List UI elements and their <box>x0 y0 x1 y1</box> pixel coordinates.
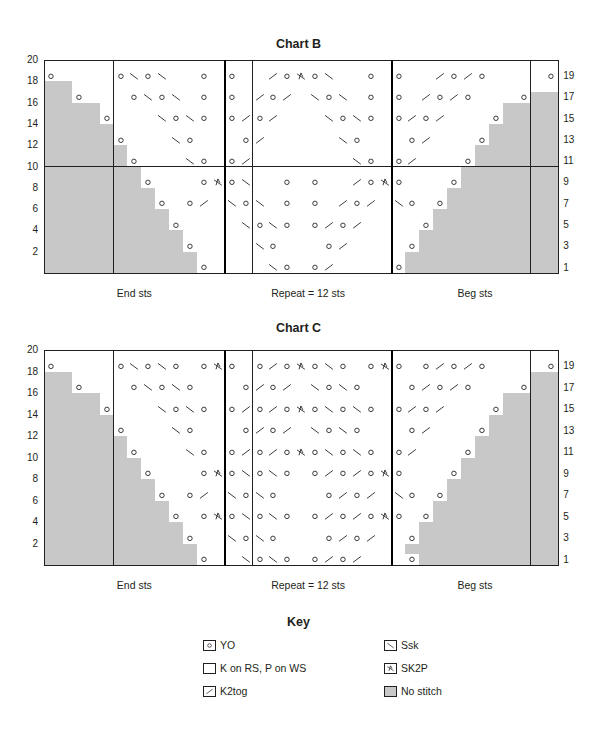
row-number-left: 4 <box>18 225 38 235</box>
stitch-cell <box>225 554 240 566</box>
row-number-right: 15 <box>563 404 583 414</box>
key-item-label: K on RS, P on WS <box>220 662 306 674</box>
no-stitch-cell <box>531 554 546 566</box>
no-stitch-cell <box>461 262 476 274</box>
row-number-right: 3 <box>563 533 583 543</box>
row-number-right: 3 <box>563 241 583 251</box>
row-number-right: 5 <box>563 512 583 522</box>
repeat-label: Repeat = 12 sts <box>225 579 392 591</box>
stitch-cell <box>266 262 281 274</box>
stitch-cell <box>322 554 337 566</box>
no-stitch-cell <box>100 262 115 274</box>
row-number-right: 15 <box>563 114 583 124</box>
row-number-right: 11 <box>563 156 583 166</box>
stitch-cell <box>239 554 254 566</box>
row-number-right: 19 <box>563 361 583 371</box>
row-number-right: 11 <box>563 447 583 457</box>
stitch-cell <box>294 554 309 566</box>
beg-sts-label: Beg sts <box>392 579 559 591</box>
ssk-swatch-icon <box>384 640 397 651</box>
row-number-right: 7 <box>563 199 583 209</box>
row-number-right: 5 <box>563 220 583 230</box>
end-sts-label: End sts <box>44 287 225 299</box>
stitch-cell <box>392 554 407 566</box>
repeat-boundary-line <box>224 60 227 274</box>
row-number-left: 16 <box>18 98 38 108</box>
key-item-label: K2tog <box>220 685 247 697</box>
row-number-right: 17 <box>563 92 583 102</box>
no-stitch-cell <box>183 554 198 566</box>
row-number-right: 9 <box>563 469 583 479</box>
sk2p-swatch-icon <box>384 663 397 674</box>
key-item-knit: K on RS, P on WS <box>203 661 306 675</box>
no-stitch-cell <box>58 262 73 274</box>
key-item-label: YO <box>220 639 235 651</box>
key-item-yo: YO <box>203 638 235 652</box>
stitch-cell <box>350 554 365 566</box>
repeat-boundary-line <box>391 60 394 274</box>
key-item-label: Ssk <box>401 639 419 651</box>
no-stitch-cell <box>86 262 101 274</box>
stitch-cell <box>225 262 240 274</box>
row-number-left: 14 <box>18 119 38 129</box>
no-stitch-cell <box>517 554 532 566</box>
no-stitch-cell <box>141 554 156 566</box>
row-number-left: 6 <box>18 496 38 506</box>
repeat-boundary-line <box>224 350 227 566</box>
no-stitch-cell <box>58 554 73 566</box>
key-item-k2tog: K2tog <box>203 684 247 698</box>
no-stitch-cell <box>503 554 518 566</box>
row-number-right: 7 <box>563 490 583 500</box>
no-stitch-cell <box>489 262 504 274</box>
row-number-left: 8 <box>18 183 38 193</box>
stitch-cell <box>253 554 268 566</box>
stitch-cell <box>253 262 268 274</box>
no-stitch-cell <box>531 262 546 274</box>
no-stitch-cell <box>419 554 434 566</box>
yo-swatch-icon <box>203 640 216 651</box>
end-sts-label: End sts <box>44 579 225 591</box>
stitch-cell <box>336 554 351 566</box>
no-stitch-cell <box>489 554 504 566</box>
no-stitch-cell <box>503 262 518 274</box>
row-number-left: 2 <box>18 539 38 549</box>
key-title: Key <box>0 615 597 629</box>
stitch-cell <box>308 554 323 566</box>
no-stitch-cell <box>155 262 170 274</box>
stitch-cell <box>280 554 295 566</box>
row-number-left: 2 <box>18 247 38 257</box>
stitch-cell <box>197 554 212 566</box>
stitch-cell <box>294 262 309 274</box>
row-number-right: 9 <box>563 177 583 187</box>
stitch-cell <box>405 554 420 566</box>
no-stitch-cell <box>127 262 142 274</box>
beg-sts-label: Beg sts <box>392 287 559 299</box>
row-number-right: 19 <box>563 71 583 81</box>
no-stitch-cell <box>114 262 129 274</box>
row-number-left: 16 <box>18 388 38 398</box>
row-number-left: 20 <box>18 345 38 355</box>
row-number-left: 18 <box>18 367 38 377</box>
key-item-ssk: Ssk <box>384 638 419 652</box>
no-stitch-cell <box>433 262 448 274</box>
stitch-cell <box>392 262 407 274</box>
row-number-left: 18 <box>18 76 38 86</box>
row-number-left: 12 <box>18 431 38 441</box>
no-stitch-cell <box>169 554 184 566</box>
k2tog-swatch-icon <box>203 686 216 697</box>
stitch-cell <box>308 262 323 274</box>
stitch-cell <box>364 262 379 274</box>
stitch-cell <box>239 262 254 274</box>
no-stitch-cell <box>517 262 532 274</box>
row-number-left: 14 <box>18 410 38 420</box>
stitch-cell <box>322 262 337 274</box>
chart-b-grid: 2018161412108642191715131197531 <box>44 60 558 273</box>
key-item-no-stitch: No stitch <box>384 684 442 698</box>
key-item-label: No stitch <box>401 685 442 697</box>
row-number-left: 10 <box>18 162 38 172</box>
no-stitch-cell <box>183 262 198 274</box>
no-stitch-cell <box>544 554 559 566</box>
no-stitch-cell <box>544 262 559 274</box>
row-number-left: 12 <box>18 140 38 150</box>
row-number-right: 13 <box>563 426 583 436</box>
